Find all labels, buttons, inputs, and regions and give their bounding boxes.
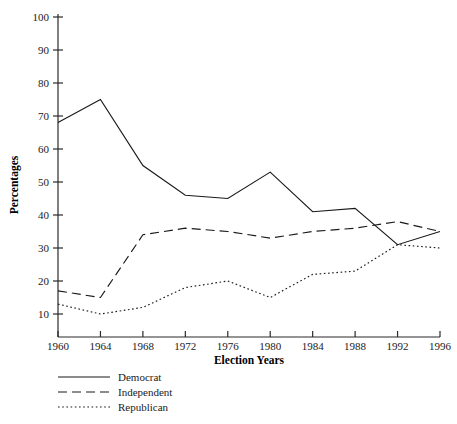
x-tick-label: 1988 bbox=[344, 340, 367, 352]
x-axis-ticks bbox=[58, 331, 440, 337]
x-axis-tick-labels: 1960196419681972197619801984198819921996 bbox=[47, 340, 452, 352]
x-axis: 1960196419681972197619801984198819921996… bbox=[47, 331, 452, 366]
y-tick-label: 50 bbox=[38, 176, 50, 188]
x-axis-title: Election Years bbox=[214, 354, 285, 366]
x-tick-label: 1996 bbox=[429, 340, 452, 352]
series-line-republican bbox=[58, 245, 440, 314]
chart-legend: DemocratIndependentRepublican bbox=[58, 371, 172, 413]
y-axis-tick-labels: 102030405060708090100 bbox=[33, 11, 50, 320]
x-tick-label: 1984 bbox=[302, 340, 325, 352]
x-tick-label: 1964 bbox=[89, 340, 112, 352]
y-axis-title: Percentages bbox=[8, 155, 21, 214]
y-tick-label: 10 bbox=[38, 308, 50, 320]
y-tick-label: 60 bbox=[38, 143, 50, 155]
chart-canvas: 102030405060708090100 Percentages 196019… bbox=[0, 0, 457, 424]
y-tick-label: 90 bbox=[38, 44, 50, 56]
series-line-democrat bbox=[58, 100, 440, 245]
y-axis: 102030405060708090100 Percentages bbox=[8, 11, 63, 337]
y-tick-label: 30 bbox=[38, 242, 50, 254]
x-tick-label: 1972 bbox=[174, 340, 196, 352]
y-tick-label: 70 bbox=[38, 110, 50, 122]
legend-label-independent: Independent bbox=[118, 386, 172, 398]
series-line-independent bbox=[58, 222, 440, 298]
legend-label-democrat: Democrat bbox=[118, 371, 161, 383]
y-tick-label: 80 bbox=[38, 77, 50, 89]
x-tick-label: 1976 bbox=[217, 340, 240, 352]
x-tick-label: 1980 bbox=[259, 340, 282, 352]
legend-label-republican: Republican bbox=[118, 401, 169, 413]
x-tick-label: 1992 bbox=[387, 340, 409, 352]
y-tick-label: 100 bbox=[33, 11, 50, 23]
line-chart: 102030405060708090100 Percentages 196019… bbox=[0, 0, 457, 424]
x-tick-label: 1960 bbox=[47, 340, 70, 352]
y-tick-label: 20 bbox=[38, 275, 50, 287]
x-tick-label: 1968 bbox=[132, 340, 155, 352]
y-tick-label: 40 bbox=[38, 209, 50, 221]
data-series-group bbox=[58, 100, 440, 315]
